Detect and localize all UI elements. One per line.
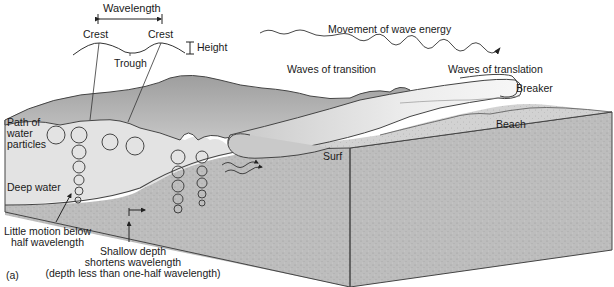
shallow-depth-label: Shallow depth shortens wavelength (depth…	[44, 246, 222, 279]
shallow-line3: (depth less than one-half wavelength)	[44, 268, 222, 279]
path-label-line3: particles	[7, 139, 46, 150]
height-label: Height	[197, 42, 227, 53]
little-motion-label: Little motion below half wavelength	[4, 226, 91, 248]
wave-diagram: Wavelength Crest Crest Trough Height Mov…	[0, 0, 614, 287]
wavelength-label: Wavelength	[103, 3, 161, 14]
panel-label: (a)	[6, 270, 19, 281]
path-of-water-particles-label: Path of water particles	[7, 117, 46, 150]
crest-right-label: Crest	[148, 29, 173, 40]
energy-label: Movement of wave energy	[328, 24, 451, 35]
beach-label: Beach	[496, 119, 526, 130]
deep-water-label: Deep water	[7, 182, 61, 193]
surf-label: Surf	[323, 151, 342, 162]
crest-left-label: Crest	[83, 29, 108, 40]
breaker-label: Breaker	[516, 83, 553, 94]
trough-label: Trough	[114, 58, 147, 69]
waves-of-translation-label: Waves of translation	[448, 64, 543, 75]
diagram-artwork	[0, 0, 614, 287]
waves-of-transition-label: Waves of transition	[287, 64, 376, 75]
